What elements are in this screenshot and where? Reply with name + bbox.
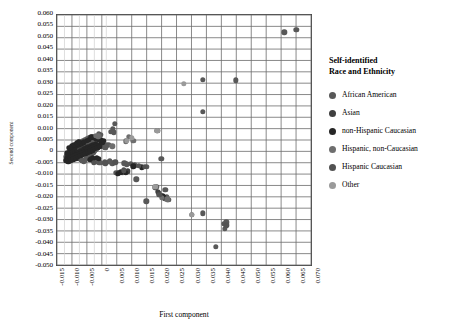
- legend-marker-icon: [329, 182, 336, 189]
- data-point: [200, 210, 205, 215]
- data-point: [282, 29, 287, 34]
- data-point: [224, 223, 229, 228]
- y-tick-label: 0: [50, 148, 53, 155]
- legend: Self-identified Race and Ethnicity Afric…: [329, 56, 449, 194]
- legend-item[interactable]: African American: [329, 86, 449, 104]
- legend-marker-icon: [329, 110, 336, 117]
- x-tick-label: 0: [104, 268, 111, 271]
- x-tick-label: 0.065: [300, 268, 307, 283]
- x-tick-label: 0.025: [179, 268, 186, 283]
- data-point: [181, 81, 186, 86]
- legend-item[interactable]: non-Hispanic Caucasian: [329, 122, 449, 140]
- x-tick-label: 0.040: [225, 268, 232, 283]
- data-point: [213, 244, 218, 249]
- data-points-layer: [57, 15, 311, 265]
- legend-title-line-1: Self-identified: [329, 56, 449, 67]
- y-tick-label: -0.010: [35, 171, 53, 178]
- x-tick-label: 0.015: [149, 268, 156, 283]
- x-tick-label: 0.010: [134, 268, 141, 283]
- x-tick-label: 0.060: [285, 268, 292, 283]
- y-tick-label: 0.035: [38, 68, 53, 75]
- y-tick-label: 0.050: [38, 33, 53, 40]
- legend-item[interactable]: Other: [329, 176, 449, 194]
- x-tick-label: 0.070: [315, 268, 322, 283]
- x-tick-label: -0.015: [59, 268, 66, 286]
- scatter-plot-figure: 0.0600.0550.0500.0450.0400.0350.0300.025…: [0, 0, 452, 328]
- data-point: [189, 212, 194, 217]
- data-point: [103, 161, 108, 166]
- x-tick-label: 0.050: [255, 268, 262, 283]
- y-tick-label: -0.050: [35, 262, 53, 269]
- y-tick-label: 0.015: [38, 114, 53, 121]
- y-tick-label: -0.025: [35, 205, 53, 212]
- legend-item-label: Asian: [342, 109, 360, 117]
- data-point: [155, 128, 160, 133]
- legend-item-label: Other: [342, 181, 359, 189]
- y-tick-label: 0.040: [38, 56, 53, 63]
- data-point: [162, 187, 167, 192]
- x-axis-tick-labels: -0.015-0.010-0.00500.0050.0100.0150.0200…: [56, 268, 312, 308]
- y-axis-tick-labels: 0.0600.0550.0500.0450.0400.0350.0300.025…: [18, 14, 53, 266]
- y-tick-label: 0.045: [38, 45, 53, 52]
- y-tick-label: 0.025: [38, 91, 53, 98]
- data-point: [200, 109, 205, 114]
- y-tick-label: -0.040: [35, 240, 53, 247]
- data-point: [109, 144, 114, 149]
- y-tick-label: -0.020: [35, 194, 53, 201]
- data-point: [159, 156, 164, 161]
- x-tick-label: 0.035: [210, 268, 217, 283]
- legend-marker-icon: [329, 146, 336, 153]
- legend-item[interactable]: Hispanic Caucasian: [329, 158, 449, 176]
- x-tick-label: 0.055: [270, 268, 277, 283]
- x-axis-title: First component: [56, 310, 312, 319]
- legend-items: African AmericanAsiannon-Hispanic Caucas…: [329, 86, 449, 194]
- legend-marker-icon: [329, 128, 336, 135]
- x-tick-label: 0.020: [164, 268, 171, 283]
- legend-marker-icon: [329, 164, 336, 171]
- y-axis-title: Second component: [8, 95, 14, 191]
- x-tick-label: 0.005: [119, 268, 126, 283]
- data-point: [233, 78, 238, 83]
- data-point: [91, 160, 96, 165]
- legend-title: Self-identified Race and Ethnicity: [329, 56, 449, 77]
- y-tick-label: 0.055: [38, 22, 53, 29]
- y-tick-label: -0.005: [35, 159, 53, 166]
- legend-item-label: non-Hispanic Caucasian: [342, 127, 416, 135]
- data-point: [143, 199, 148, 204]
- y-tick-label: -0.035: [35, 228, 53, 235]
- legend-title-line-2: Race and Ethnicity: [329, 67, 449, 78]
- data-point: [200, 77, 205, 82]
- y-tick-label: -0.030: [35, 217, 53, 224]
- legend-item[interactable]: Hispanic, non-Caucasian: [329, 140, 449, 158]
- legend-item[interactable]: Asian: [329, 104, 449, 122]
- plot-area: [56, 14, 312, 266]
- y-tick-label: 0.010: [38, 125, 53, 132]
- y-tick-label: 0.005: [38, 136, 53, 143]
- y-tick-label: 0.020: [38, 102, 53, 109]
- y-tick-label: 0.060: [38, 10, 53, 17]
- data-point: [134, 177, 139, 182]
- legend-item-label: African American: [342, 91, 397, 99]
- legend-marker-icon: [329, 92, 336, 99]
- x-tick-label: 0.030: [195, 268, 202, 283]
- legend-item-label: Hispanic, non-Caucasian: [342, 145, 418, 153]
- y-tick-label: -0.015: [35, 182, 53, 189]
- x-tick-label: -0.005: [89, 268, 96, 286]
- data-point: [112, 160, 117, 165]
- data-point: [294, 27, 299, 32]
- x-tick-label: 0.045: [240, 268, 247, 283]
- x-tick-label: -0.010: [74, 268, 81, 286]
- y-tick-label: -0.045: [35, 251, 53, 258]
- y-tick-label: 0.030: [38, 79, 53, 86]
- legend-item-label: Hispanic Caucasian: [342, 163, 402, 171]
